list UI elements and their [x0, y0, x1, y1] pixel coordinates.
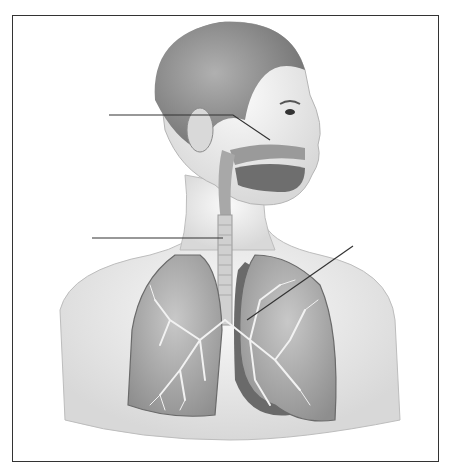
head [155, 22, 321, 230]
respiratory-illustration [0, 0, 453, 475]
